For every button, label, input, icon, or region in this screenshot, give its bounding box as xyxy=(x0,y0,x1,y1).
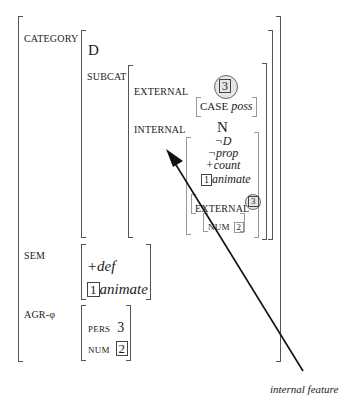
arrowhead-icon xyxy=(166,149,183,167)
internal-feature-caption: internal feature xyxy=(270,383,338,395)
arrow-pointer xyxy=(0,0,354,409)
